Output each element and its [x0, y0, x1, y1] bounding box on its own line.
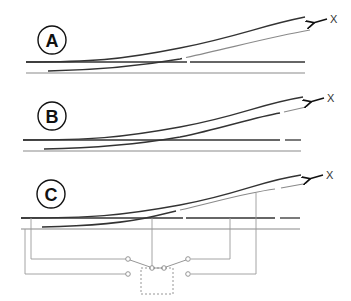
diverging-rail-inner: [44, 113, 280, 149]
contact-right-2: [186, 272, 191, 277]
diverging-rail-inner-isolated: [284, 107, 306, 112]
panel-c-label: C: [37, 180, 65, 208]
label-letter: C: [45, 185, 58, 205]
marker-x: X: [326, 169, 334, 181]
marker-x: X: [327, 92, 335, 104]
switch-contacts: [126, 257, 191, 277]
blade-left: [130, 260, 150, 267]
blade-right: [166, 260, 186, 267]
contact-right-1: [186, 257, 191, 262]
panel-a-label: A: [38, 26, 66, 54]
contact-left-2: [126, 272, 131, 277]
arrow-icon: [313, 19, 327, 23]
label-letter: B: [46, 107, 59, 127]
turnout-diagram: A X B X C: [0, 0, 351, 301]
diverging-rail-inner-isolated: [281, 184, 303, 188]
marker-x: X: [330, 13, 338, 25]
diverging-rail-outer: [21, 175, 301, 218]
wire-lower-rail-feed: [25, 229, 126, 274]
label-letter: A: [46, 31, 59, 51]
wire-upper-rail-right: [191, 218, 230, 259]
panel-a: A X: [26, 13, 338, 73]
diverging-rail-inner-frog: [180, 189, 275, 210]
switch-blades: [130, 260, 186, 268]
diverging-rail-outer: [23, 97, 303, 140]
contact-left-1: [126, 257, 131, 262]
diverging-rail-inner-frog: [186, 30, 310, 58]
arrow-icon: [310, 98, 324, 102]
diverging-rail-inner-point: [48, 59, 182, 72]
wire-upper-rail-feed: [31, 218, 126, 259]
panel-c: C X: [21, 169, 334, 294]
diverging-rail-inner-point: [42, 211, 176, 227]
panel-b: B X: [23, 92, 335, 151]
panel-b-label: B: [38, 102, 66, 130]
arrow-icon: [309, 175, 323, 179]
dpdt-switch-box: [141, 268, 173, 294]
